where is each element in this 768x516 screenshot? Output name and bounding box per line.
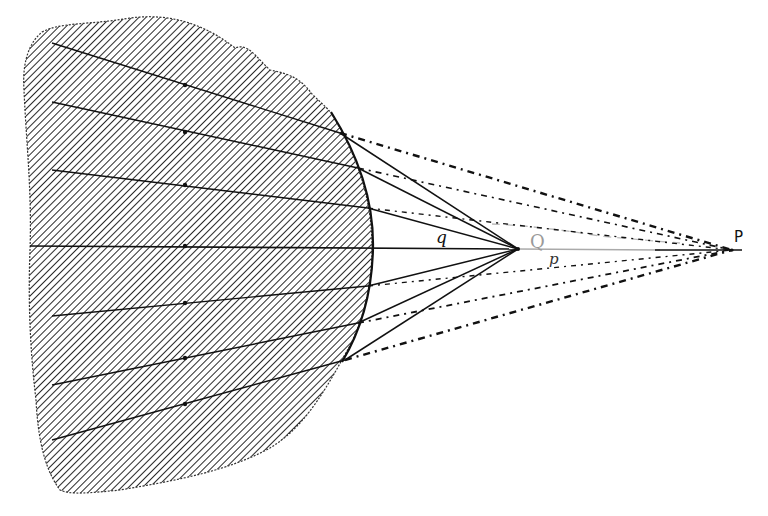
label-p: p bbox=[549, 252, 559, 267]
focus-point-Q bbox=[516, 247, 520, 251]
diagram-canvas bbox=[0, 0, 768, 516]
refraction-diagram: q Q p P bbox=[0, 0, 768, 516]
ray-direction-markers bbox=[183, 83, 187, 406]
label-q: q bbox=[436, 229, 447, 246]
label-Q: Q bbox=[530, 233, 545, 251]
point-P bbox=[730, 248, 733, 251]
label-P: P bbox=[734, 230, 743, 245]
